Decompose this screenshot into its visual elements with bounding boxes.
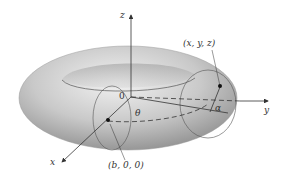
y-axis-label: y bbox=[263, 105, 270, 115]
tube-center-point bbox=[106, 118, 110, 122]
surface-point bbox=[218, 84, 222, 88]
torus-diagram: z y x 0 (x, y, z) (b, 0, 0) θ α bbox=[0, 0, 286, 179]
center-point-label: (b, 0, 0) bbox=[108, 160, 144, 170]
x-axis-label: x bbox=[50, 157, 55, 167]
surface-point-label: (x, y, z) bbox=[183, 38, 216, 48]
theta-label: θ bbox=[135, 108, 141, 118]
torus-outer bbox=[19, 46, 237, 150]
alpha-label: α bbox=[215, 103, 221, 113]
origin-label: 0 bbox=[119, 91, 125, 101]
z-axis-label: z bbox=[119, 10, 125, 20]
